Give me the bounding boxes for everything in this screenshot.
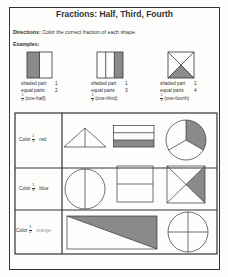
row-halves-rectangle xyxy=(67,216,157,249)
row-label-halves: Color 12 orange xyxy=(16,226,51,235)
shaded-region xyxy=(168,65,194,78)
fraction-denominator: 4 xyxy=(32,189,35,193)
color-prefix: Color xyxy=(16,228,27,233)
fraction-denominator: 3 xyxy=(32,140,35,144)
shaded-region xyxy=(27,52,40,78)
color-prefix: Color xyxy=(19,186,30,191)
row-thirds-circle xyxy=(166,120,206,160)
example-third-shape xyxy=(97,52,123,78)
example-half-shape xyxy=(27,52,52,78)
shaded-region xyxy=(186,166,205,203)
row-thirds-rectangle xyxy=(114,126,155,148)
row-label-thirds: Color 13 red xyxy=(19,135,46,144)
fraction: 14 xyxy=(32,184,35,193)
row-fourths-rectangle xyxy=(117,166,153,202)
fraction: 12 xyxy=(29,226,32,235)
shaded-region xyxy=(114,52,123,78)
fraction-denominator: 2 xyxy=(29,231,32,235)
row-label-fourths: Color 14 blue xyxy=(19,184,48,193)
row-fourths-square xyxy=(167,166,205,203)
color-word: blue xyxy=(39,186,48,191)
fraction: 13 xyxy=(32,135,35,144)
divider-line xyxy=(169,140,186,150)
color-word: red xyxy=(39,137,46,142)
example-fourth-shape xyxy=(168,52,194,78)
row-fourths-circle xyxy=(65,169,105,209)
color-word: orange xyxy=(36,228,51,233)
shaded-region xyxy=(114,140,155,147)
color-prefix: Color xyxy=(19,137,30,142)
row-halves-circle xyxy=(168,212,208,252)
row-thirds-triangle xyxy=(64,128,106,147)
